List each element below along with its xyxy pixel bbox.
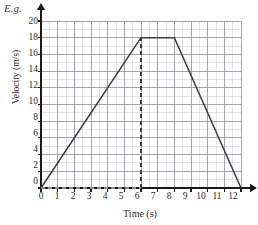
axis-tick-marks: [38, 21, 242, 192]
velocity-time-graph-figure: E.g. Velocity (m/s) Time (s) 20 18 16 14…: [0, 0, 258, 225]
plot-canvas: [0, 0, 258, 225]
